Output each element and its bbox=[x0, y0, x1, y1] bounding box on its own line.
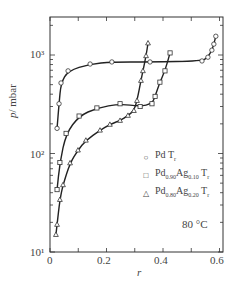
y-axis-label-symbol: p bbox=[6, 113, 18, 119]
square-marker-icon: □ bbox=[142, 169, 150, 182]
plot-frame bbox=[50, 17, 223, 252]
y-axis-label-unit: / mbar bbox=[6, 84, 18, 112]
circle-marker-icon: ○ bbox=[142, 151, 150, 164]
x-tick-label-0: 0 bbox=[47, 254, 53, 266]
data-curves bbox=[56, 36, 216, 234]
temperature-annotation: 80 °C bbox=[182, 218, 208, 230]
y-tick-label-10: 10¹ bbox=[30, 246, 44, 258]
x-axis-label: r bbox=[137, 266, 141, 278]
legend-label: Pd Tr bbox=[155, 148, 176, 166]
x-tick-label-0.6: 0.6 bbox=[210, 254, 224, 266]
triangle-marker-icon: △ bbox=[142, 187, 150, 200]
y-axis-label: p/ mbar bbox=[6, 84, 18, 118]
axis-ticks bbox=[50, 17, 223, 252]
chart-plot bbox=[0, 0, 248, 283]
legend: ○ Pd Tr □ Pd0.90Ag0.10 Tr △ Pd0.80Ag0.20… bbox=[142, 148, 209, 202]
data-markers bbox=[54, 34, 218, 236]
legend-item-pd90ag10: □ Pd0.90Ag0.10 Tr bbox=[142, 166, 209, 184]
y-tick-label-100: 10² bbox=[30, 148, 44, 160]
x-tick-label-0.2: 0.2 bbox=[97, 254, 111, 266]
legend-item-pd: ○ Pd Tr bbox=[142, 148, 209, 166]
legend-label: Pd0.90Ag0.10 Tr bbox=[155, 166, 209, 184]
legend-item-pd80ag20: △ Pd0.80Ag0.20 Tr bbox=[142, 184, 209, 202]
legend-label: Pd0.80Ag0.20 Tr bbox=[155, 184, 209, 202]
x-tick-label-0.4: 0.4 bbox=[154, 254, 168, 266]
y-tick-label-1000: 10³ bbox=[30, 48, 44, 60]
